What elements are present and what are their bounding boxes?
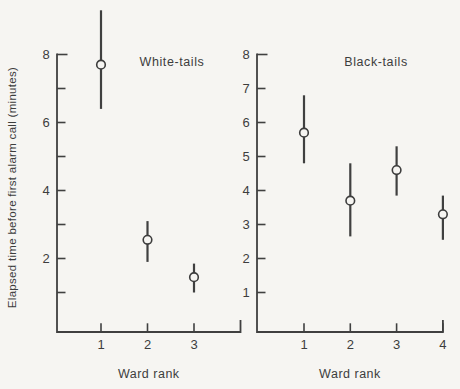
x-tick-label: 3 bbox=[190, 337, 197, 352]
y-tick-label: 8 bbox=[242, 47, 250, 62]
data-point-mean bbox=[346, 196, 355, 205]
x-tick-label: 4 bbox=[439, 337, 446, 352]
data-point-mean bbox=[392, 166, 401, 175]
x-axis-label: Ward rank bbox=[319, 367, 381, 381]
y-tick-label: 4 bbox=[42, 183, 50, 198]
y-tick-label: 4 bbox=[242, 183, 250, 198]
panel-title: White-tails bbox=[140, 55, 205, 69]
data-point-mean bbox=[439, 210, 448, 219]
x-tick-label: 1 bbox=[97, 337, 104, 352]
dual-panel-error-bar-figure: 2468123White-tailsWard rank123456781234B… bbox=[0, 0, 460, 389]
data-point-mean bbox=[300, 128, 309, 137]
y-tick-label: 6 bbox=[42, 115, 50, 130]
y-tick-label: 8 bbox=[42, 47, 50, 62]
y-tick-label: 5 bbox=[242, 149, 250, 164]
chart-canvas: 2468123White-tailsWard rank123456781234B… bbox=[0, 0, 460, 389]
panel-title: Black-tails bbox=[344, 55, 408, 69]
axis-frame bbox=[57, 55, 241, 333]
x-tick-label: 2 bbox=[347, 337, 354, 352]
y-axis-label: Elapsed time before first alarm call (mi… bbox=[6, 67, 18, 308]
x-tick-label: 2 bbox=[144, 337, 151, 352]
y-tick-label: 2 bbox=[42, 251, 50, 266]
x-tick-label: 1 bbox=[300, 337, 307, 352]
panel-black-tails: 123456781234Black-tailsWard rank bbox=[242, 47, 447, 380]
y-tick-label: 2 bbox=[242, 251, 250, 266]
data-point-mean bbox=[97, 60, 106, 69]
y-tick-label: 1 bbox=[242, 285, 250, 300]
y-tick-label: 7 bbox=[242, 81, 250, 96]
y-tick-label: 3 bbox=[242, 217, 250, 232]
data-point-mean bbox=[143, 236, 152, 245]
x-axis-label: Ward rank bbox=[118, 367, 180, 381]
y-tick-label: 6 bbox=[242, 115, 250, 130]
x-tick-label: 3 bbox=[393, 337, 400, 352]
panel-white-tails: 2468123White-tailsWard rank bbox=[42, 10, 240, 380]
data-point-mean bbox=[190, 273, 199, 282]
